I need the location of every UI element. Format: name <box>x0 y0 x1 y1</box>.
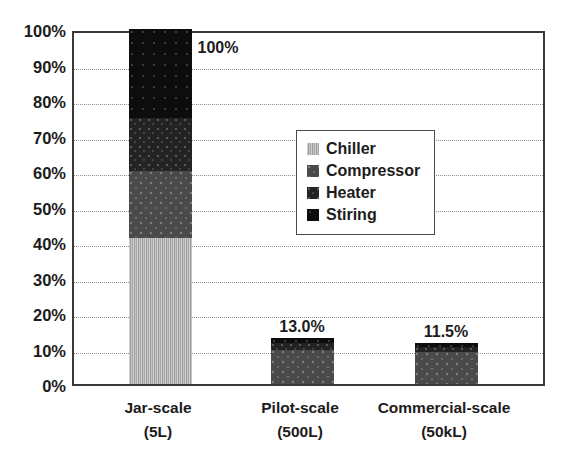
y-axis-tick-label: 70% <box>0 128 66 147</box>
legend-item-label: Compressor <box>326 163 420 179</box>
legend-item-label: Heater <box>326 185 376 201</box>
bar-segment-chiller[interactable] <box>129 238 192 384</box>
bar-segment-compressor[interactable] <box>415 352 478 384</box>
legend-item[interactable]: Heater <box>307 182 420 204</box>
chiller-swatch-icon <box>307 143 319 155</box>
legend-item-label: Chiller <box>326 141 376 157</box>
y-axis-tick-label: 30% <box>0 270 66 289</box>
x-axis-category-volume: (50kL) <box>354 420 534 444</box>
legend-item[interactable]: Chiller <box>307 138 420 160</box>
legend-item[interactable]: Stiring <box>307 204 420 226</box>
stacked-bar-chart: 0%10%20%30%40%50%60%70%80%90%100% 100%13… <box>0 0 567 460</box>
heater-swatch-icon <box>307 187 319 199</box>
bar-segment-stiring[interactable] <box>129 29 192 118</box>
y-axis: 0%10%20%30%40%50%60%70%80%90%100% <box>0 0 66 460</box>
y-axis-tick-label: 100% <box>0 22 66 41</box>
scan-artifact-strip <box>0 0 567 24</box>
y-axis-tick-label: 60% <box>0 164 66 183</box>
bar-segment-compressor[interactable] <box>271 350 334 384</box>
bar-segment-heater[interactable] <box>129 118 192 171</box>
x-axis-category-name: Pilot-scale <box>261 399 339 416</box>
y-axis-tick-label: 90% <box>0 57 66 76</box>
y-axis-tick-label: 40% <box>0 235 66 254</box>
y-axis-tick-label: 50% <box>0 199 66 218</box>
legend-item[interactable]: Compressor <box>307 160 420 182</box>
y-axis-tick-label: 10% <box>0 341 66 360</box>
x-axis: Jar-scale(5L)Pilot-scale(500L)Commercial… <box>0 392 567 456</box>
x-axis-category-name: Commercial-scale <box>378 399 511 416</box>
bar-data-label: 11.5% <box>386 323 506 341</box>
bar-segment-heater[interactable] <box>271 343 334 350</box>
x-axis-category-label: Commercial-scale(50kL) <box>354 396 534 444</box>
x-axis-category-name: Jar-scale <box>124 399 191 416</box>
y-axis-tick-label: 20% <box>0 306 66 325</box>
bar-stack[interactable] <box>271 338 334 384</box>
bar-data-label: 100% <box>198 39 318 57</box>
bar-stack[interactable] <box>415 343 478 384</box>
stiring-swatch-icon <box>307 209 319 221</box>
bar-segment-compressor[interactable] <box>129 171 192 238</box>
bar-stack[interactable] <box>129 29 192 384</box>
y-axis-tick-label: 80% <box>0 93 66 112</box>
legend-item-label: Stiring <box>326 207 377 223</box>
bar-data-label: 13.0% <box>242 318 362 336</box>
compressor-swatch-icon <box>307 165 319 177</box>
chart-legend: ChillerCompressorHeaterStiring <box>296 130 435 235</box>
